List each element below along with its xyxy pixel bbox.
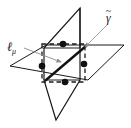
line-label-ell-mu: ℓμ bbox=[7, 40, 16, 56]
point-bottom bbox=[62, 79, 69, 86]
line-label-mu-subscript: μ bbox=[12, 47, 16, 56]
curve-label-gamma-tilde: ~γ bbox=[106, 12, 111, 24]
vertical-plane-lower bbox=[44, 80, 80, 120]
dashed-square bbox=[42, 44, 85, 82]
tilde-accent-icon: ~ bbox=[106, 6, 111, 16]
point-left bbox=[39, 63, 46, 70]
point-right bbox=[81, 61, 88, 68]
point-top bbox=[60, 41, 67, 48]
leader-gamma bbox=[85, 25, 107, 47]
geometry-figure: ℓμ ~γ bbox=[0, 0, 131, 128]
figure-canvas bbox=[0, 0, 131, 128]
